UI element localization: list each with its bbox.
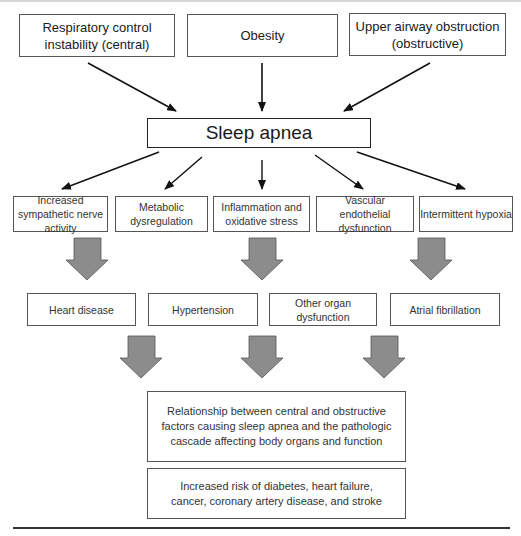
cause-obesity-label: Obesity	[240, 27, 284, 44]
sleep-apnea-label: Sleep apnea	[206, 122, 313, 144]
cause-central-box: Respiratory control instability (central…	[19, 14, 175, 57]
risk-box: Increased risk of diabetes, heart failur…	[147, 468, 406, 519]
cause-obesity-box: Obesity	[187, 14, 338, 57]
mechanism-vascular-box: Vascular endothelial dysfunction	[316, 196, 414, 232]
arrow-central-to-apnea	[88, 63, 176, 111]
arrow-apnea-to-vascular	[315, 155, 363, 189]
mechanism-metabolic-box: Metabolic dysregulation	[115, 196, 208, 232]
mechanism-inflammation-box: Inflammation and oxidative stress	[213, 196, 310, 232]
outcome-heart-disease-box: Heart disease	[27, 293, 136, 326]
block-arrow-1	[66, 238, 108, 280]
block-arrow-3	[410, 238, 452, 280]
summary-label: Relationship between central and obstruc…	[158, 404, 395, 449]
mechanism-hypoxia-label: Intermittent hypoxia	[420, 207, 512, 221]
outcome-atrial-fibrillation-box: Atrial fibrillation	[390, 293, 500, 326]
block-arrow-5	[241, 336, 283, 378]
arrow-apnea-to-hypoxia	[357, 152, 465, 189]
outcome-hypertension-label: Hypertension	[172, 303, 234, 317]
mechanism-sympathetic-label: Increased sympathetic nerve activity	[14, 193, 107, 235]
arrow-apnea-to-metabolic	[165, 157, 202, 189]
arrow-obstructive-to-apnea	[344, 63, 430, 111]
mechanism-inflammation-label: Inflammation and oxidative stress	[220, 200, 303, 228]
outcome-hypertension-box: Hypertension	[148, 293, 258, 326]
block-arrow-6	[363, 336, 405, 378]
block-arrow-2	[241, 238, 283, 280]
mechanism-sympathetic-box: Increased sympathetic nerve activity	[13, 196, 108, 232]
outcome-heart-disease-label: Heart disease	[49, 303, 114, 317]
outcome-other-organ-box: Other organ dysfunction	[269, 293, 377, 326]
outcome-other-organ-label: Other organ dysfunction	[270, 296, 376, 324]
bottom-rule	[13, 527, 510, 529]
outcome-atrial-fibrillation-label: Atrial fibrillation	[409, 303, 480, 317]
mechanism-vascular-label: Vascular endothelial dysfunction	[321, 193, 409, 235]
cause-obstructive-box: Upper airway obstruction (obstructive)	[349, 13, 506, 56]
cause-obstructive-label: Upper airway obstruction (obstructive)	[350, 18, 505, 52]
summary-box: Relationship between central and obstruc…	[147, 391, 406, 462]
cause-central-label: Respiratory control instability (central…	[20, 19, 174, 53]
block-arrow-4	[120, 336, 162, 378]
risk-label: Increased risk of diabetes, heart failur…	[168, 479, 385, 509]
mechanism-hypoxia-box: Intermittent hypoxia	[419, 196, 513, 232]
sleep-apnea-box: Sleep apnea	[147, 118, 371, 148]
arrow-apnea-to-sympathetic	[62, 152, 159, 189]
mechanism-metabolic-label: Metabolic dysregulation	[128, 200, 195, 228]
